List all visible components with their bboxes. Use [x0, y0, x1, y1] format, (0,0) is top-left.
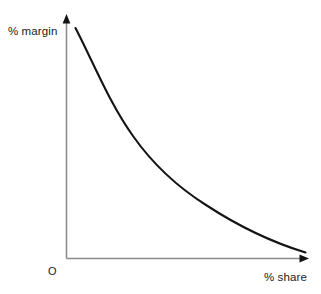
chart-figure: % margin % share O — [0, 0, 321, 294]
margin-share-curve — [76, 28, 306, 253]
y-axis-arrowhead-icon — [63, 14, 71, 24]
plot-canvas — [0, 0, 321, 294]
y-axis-label: % margin — [8, 26, 57, 38]
x-axis-label: % share — [264, 272, 307, 284]
origin-label: O — [48, 266, 57, 277]
x-axis-arrowhead-icon — [300, 255, 310, 263]
